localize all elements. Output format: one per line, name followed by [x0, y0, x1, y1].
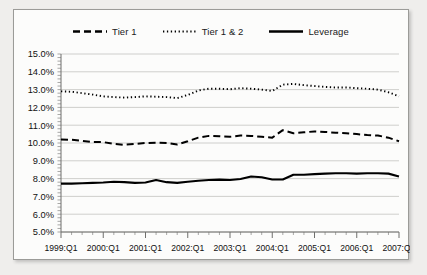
x-axis-tick-label: 2003:Q1 [214, 243, 247, 253]
y-axis-tick-label: 15.0% [28, 49, 54, 59]
x-axis-tick-label: 1999:Q1 [45, 243, 78, 253]
y-axis-tick-label: 9.0% [33, 156, 54, 166]
y-axis-tick-label: 7.0% [33, 192, 54, 202]
x-axis-tick-label: 2007:Q1 [383, 243, 410, 253]
x-axis-tick-label: 2000:Q1 [87, 243, 120, 253]
x-axis-tick-label: 2005:Q1 [298, 243, 331, 253]
y-axis-tick-label: 5.0% [33, 227, 54, 237]
y-axis-tick-label: 6.0% [33, 210, 54, 220]
chart-figure: Tier 1 Tier 1 & 2 Leverage 15.0%14.0%13.… [13, 9, 409, 260]
y-axis-tick-label: 8.0% [33, 174, 54, 184]
y-axis-tick-label: 14.0% [28, 67, 54, 77]
y-axis-tick-label: 10.0% [28, 138, 54, 148]
y-axis-tick-label: 11.0% [28, 121, 54, 131]
y-axis-tick-label: 13.0% [28, 85, 54, 95]
x-axis-tick-label: 2001:Q1 [129, 243, 162, 253]
x-axis-tick-label: 2002:Q1 [171, 243, 204, 253]
chart-plot-area: 15.0%14.0%13.0%12.0%11.0%10.0%9.0%8.0%7.… [14, 10, 408, 259]
x-axis-tick-label: 2004:Q1 [256, 243, 289, 253]
series-line [61, 84, 399, 98]
chart-canvas: 15.0%14.0%13.0%12.0%11.0%10.0%9.0%8.0%7.… [14, 10, 410, 261]
y-axis-tick-label: 12.0% [28, 103, 54, 113]
x-axis-tick-label: 2006:Q1 [340, 243, 373, 253]
